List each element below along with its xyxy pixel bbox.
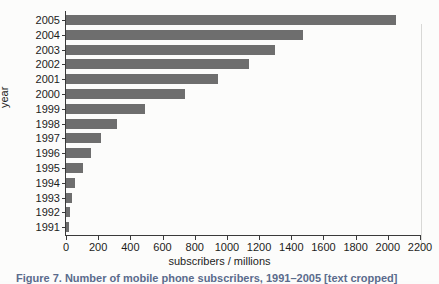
x-axis-tick: [259, 236, 260, 240]
x-axis-tick-label: 1400: [279, 241, 303, 253]
y-axis-tick-label: 2000: [20, 86, 60, 102]
x-axis-tick-label: 2200: [408, 241, 432, 253]
x-axis-tick: [163, 236, 164, 240]
bar: [66, 59, 249, 69]
bar: [66, 30, 303, 40]
bar: [66, 15, 396, 25]
x-axis-tick: [356, 236, 357, 240]
y-axis-title: year: [0, 87, 10, 108]
bar: [66, 222, 69, 232]
x-axis-tick-label: 1000: [215, 241, 239, 253]
bar-row: [66, 130, 420, 146]
x-axis-tick-label: 2000: [376, 241, 400, 253]
x-axis-tick: [98, 236, 99, 240]
y-axis-tick-label: 2002: [20, 56, 60, 72]
y-axis-tick: [62, 124, 66, 125]
y-axis-tick: [62, 94, 66, 95]
x-axis-tick: [66, 236, 67, 240]
y-axis-tick-label: 1992: [20, 204, 60, 220]
y-axis-tick: [62, 20, 66, 21]
bar: [66, 178, 75, 188]
bar: [66, 45, 275, 55]
bar-row: [66, 204, 420, 220]
x-axis-tick: [130, 236, 131, 240]
y-axis-tick-label: 1994: [20, 175, 60, 191]
y-axis-tick-label: 2004: [20, 27, 60, 43]
y-axis-tick: [62, 35, 66, 36]
bar: [66, 119, 117, 129]
y-axis-tick: [62, 198, 66, 199]
plot-area: [66, 12, 420, 234]
x-axis-tick: [323, 236, 324, 240]
bar-row: [66, 145, 420, 161]
x-axis-tick-label: 600: [153, 241, 171, 253]
y-axis-tick: [62, 212, 66, 213]
y-axis-tick: [62, 183, 66, 184]
bar-row: [66, 56, 420, 72]
y-axis-tick-label: 2003: [20, 42, 60, 58]
bar-row: [66, 175, 420, 191]
x-axis-title: subscribers / millions: [0, 255, 439, 267]
y-axis-tick-label: 1991: [20, 219, 60, 235]
scan-fold-line: [421, 24, 422, 247]
y-axis-tick: [62, 50, 66, 51]
y-axis-tick: [62, 153, 66, 154]
y-axis-tick-label: 1997: [20, 130, 60, 146]
bar-row: [66, 101, 420, 117]
bar: [66, 104, 145, 114]
bar-row: [66, 71, 420, 87]
y-axis-tick-label: 1995: [20, 160, 60, 176]
y-axis-tick-label: 1999: [20, 101, 60, 117]
bar-row: [66, 190, 420, 206]
x-axis-tick-label: 400: [121, 241, 139, 253]
y-axis-tick: [62, 64, 66, 65]
bar: [66, 163, 83, 173]
x-axis-tick-label: 0: [63, 241, 69, 253]
y-axis-tick-label: 1998: [20, 116, 60, 132]
x-axis-tick: [420, 236, 421, 240]
bar: [66, 74, 218, 84]
x-axis-tick-label: 1200: [247, 241, 271, 253]
bar: [66, 148, 91, 158]
x-axis-tick-label: 1800: [343, 241, 367, 253]
bar: [66, 133, 101, 143]
x-axis-tick: [195, 236, 196, 240]
x-axis-tick: [227, 236, 228, 240]
x-axis-tick: [388, 236, 389, 240]
bar-row: [66, 160, 420, 176]
bar: [66, 207, 70, 217]
x-axis-tick-label: 200: [89, 241, 107, 253]
y-axis-tick: [62, 109, 66, 110]
bar-row: [66, 27, 420, 43]
figure-caption: Figure 7. Number of mobile phone subscri…: [16, 272, 436, 284]
y-axis-tick-label: 2001: [20, 71, 60, 87]
y-axis-tick-label: 1996: [20, 145, 60, 161]
y-axis-tick-label: 2005: [20, 12, 60, 28]
x-axis-tick: [291, 236, 292, 240]
y-axis-tick-label: 1993: [20, 190, 60, 206]
bar: [66, 193, 72, 203]
y-axis-tick: [62, 168, 66, 169]
bar-row: [66, 12, 420, 28]
y-axis-tick: [62, 138, 66, 139]
bar-row: [66, 219, 420, 235]
y-axis-tick: [62, 79, 66, 80]
bar-row: [66, 86, 420, 102]
x-axis-tick-label: 800: [186, 241, 204, 253]
x-axis-tick-label: 1600: [311, 241, 335, 253]
bar-row: [66, 42, 420, 58]
bar: [66, 89, 185, 99]
bar-row: [66, 116, 420, 132]
y-axis-tick: [62, 227, 66, 228]
